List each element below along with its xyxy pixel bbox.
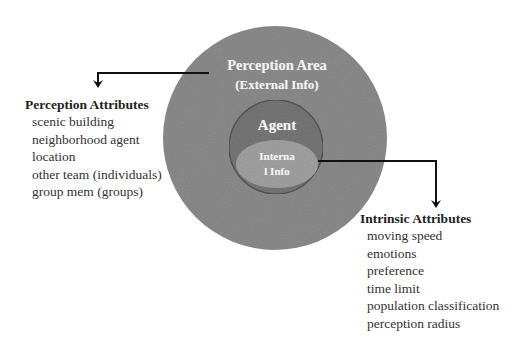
perception-attributes-block: Perception Attributes scenic building ne… xyxy=(25,96,162,201)
perception-attributes-heading: Perception Attributes xyxy=(25,96,162,113)
list-item: emotions xyxy=(367,245,499,263)
perception-area-title: Perception Area xyxy=(227,57,327,74)
list-item: scenic building xyxy=(32,113,162,131)
list-item: group mem (groups) xyxy=(32,183,162,201)
internal-info-label-line2: l Info xyxy=(264,164,289,178)
list-item: other team (individuals) xyxy=(32,166,162,184)
agent-label: Agent xyxy=(258,117,296,134)
list-item: moving speed xyxy=(367,227,499,245)
list-item: perception radius xyxy=(367,315,499,333)
intrinsic-attributes-block: Intrinsic Attributes moving speed emotio… xyxy=(360,210,499,332)
list-item: population classification xyxy=(367,297,499,315)
perception-attributes-list: scenic building neighborhood agent locat… xyxy=(25,113,162,201)
list-item: location xyxy=(32,148,162,166)
list-item: neighborhood agent xyxy=(32,131,162,149)
intrinsic-attributes-heading: Intrinsic Attributes xyxy=(360,210,499,227)
perception-area-subtitle: (External Info) xyxy=(235,77,318,93)
internal-info-label-line1: Interna xyxy=(259,149,294,163)
list-item: preference xyxy=(367,262,499,280)
list-item: time limit xyxy=(367,280,499,298)
intrinsic-attributes-list: moving speed emotions preference time li… xyxy=(360,227,499,332)
